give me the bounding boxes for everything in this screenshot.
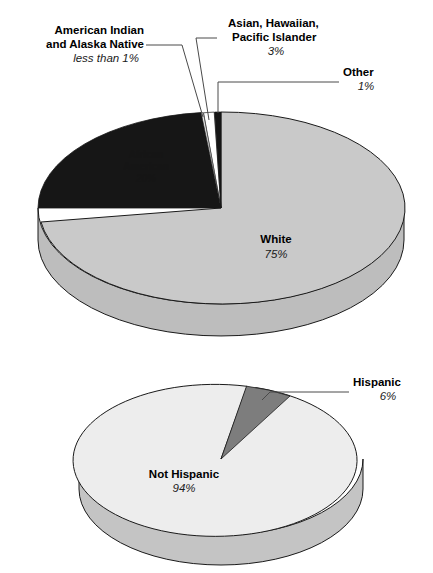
label-african-american-line1: African	[129, 149, 163, 160]
label-asian-line1: Asian, Hawaiian,	[228, 17, 319, 29]
label-asian-line2: Pacific Islander	[232, 31, 317, 43]
label-american-indian-line2: and Alaska Native	[46, 38, 144, 50]
label-other-pct: 1%	[358, 80, 375, 92]
ethnicity-slice-not-hispanic	[73, 384, 357, 536]
label-asian-pct: 3%	[268, 45, 285, 57]
label-not-hispanic-pct: 94%	[172, 482, 195, 494]
label-american-indian-pct: less than 1%	[73, 52, 139, 64]
label-african-american-pct: 20%	[135, 173, 156, 184]
label-hispanic-pct: 6%	[380, 390, 397, 402]
label-white-name: White	[260, 233, 291, 245]
label-not-hispanic-name: Not Hispanic	[149, 468, 220, 480]
two-pie-chart-figure: American Indian and Alaska Native less t…	[0, 0, 433, 573]
label-hispanic-name: Hispanic	[353, 376, 402, 388]
label-african-american-line2: American	[123, 161, 169, 172]
label-american-indian-line1: American Indian	[55, 24, 144, 36]
label-white-pct: 75%	[264, 248, 287, 260]
label-other-name: Other	[343, 66, 374, 78]
